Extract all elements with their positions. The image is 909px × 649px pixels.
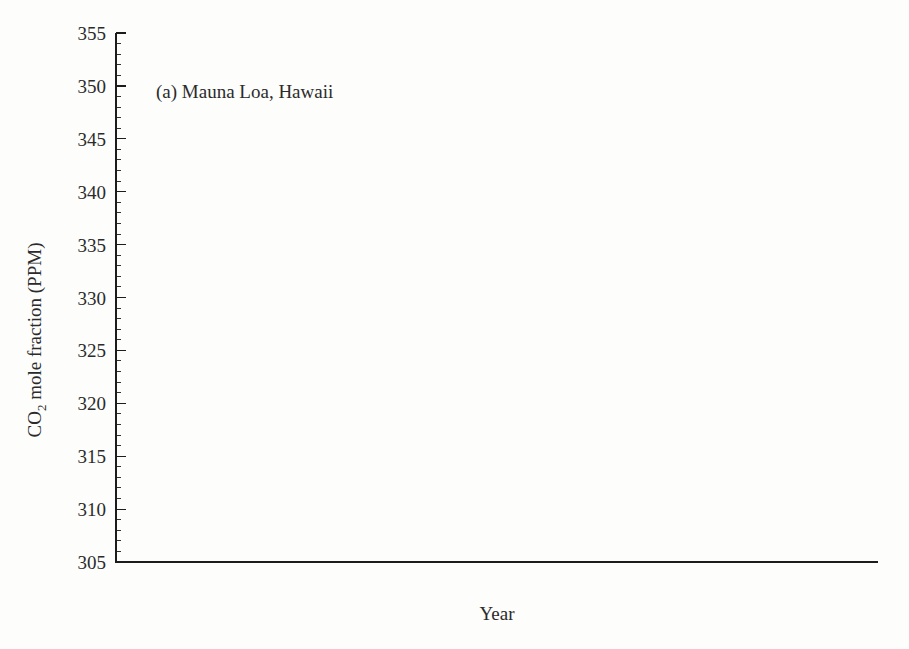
panel-label: (a) Mauna Loa, Hawaii [156,81,333,103]
y-tick-label: 340 [78,182,107,203]
co2-mauna-loa-figure: 305310315320325330335340345350355 586062… [0,0,909,649]
y-tick-label: 350 [78,76,107,97]
y-tick-label: 310 [78,499,107,520]
x-axis-title: Year [479,603,515,624]
y-axis-title-suffix: mole fraction (PPM) [24,243,46,405]
y-tick-label: 305 [78,552,107,573]
y-tick-label: 325 [78,340,107,361]
y-tick-label: 315 [78,446,107,467]
y-tick-label: 345 [78,129,107,150]
y-tick-label: 335 [78,235,107,256]
figure-background [0,0,909,649]
y-tick-label: 320 [78,393,107,414]
chart-canvas: 305310315320325330335340345350355 586062… [0,0,909,649]
y-tick-label: 355 [78,23,107,44]
y-axis-title-prefix: CO [24,411,45,437]
y-tick-label: 330 [78,288,107,309]
